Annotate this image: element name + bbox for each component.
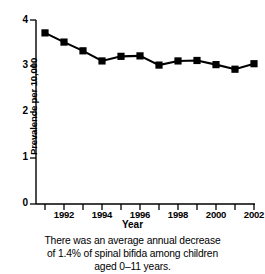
data-point-1996 (136, 52, 143, 59)
data-point-1994 (98, 57, 105, 64)
figure-caption: There was an average annual decrease of … (8, 234, 257, 274)
data-point-2001 (231, 66, 238, 73)
caption-line-3: aged 0–11 years. (8, 260, 257, 273)
data-point-1998 (174, 57, 181, 64)
series-line-spina-bifida (45, 33, 254, 69)
caption-line-1: There was an average annual decrease (8, 234, 257, 247)
data-point-2000 (212, 61, 219, 68)
data-point-2002 (250, 60, 257, 67)
caption-line-2: of 1.4% of spinal bifida among children (8, 247, 257, 260)
y-tick-marks (30, 20, 36, 204)
data-point-1992 (60, 38, 67, 45)
data-point-1995 (117, 53, 124, 60)
x-axis-title: Year (0, 219, 265, 230)
data-point-1997 (155, 61, 162, 68)
data-point-1993 (79, 47, 86, 54)
line-chart-svg (0, 0, 265, 232)
data-point-1991 (41, 29, 48, 36)
figure: Prevalence per 10,000 4 3 2 1 0 (0, 0, 265, 274)
data-point-1999 (193, 57, 200, 64)
chart-plot-area: Prevalence per 10,000 4 3 2 1 0 (0, 0, 265, 232)
